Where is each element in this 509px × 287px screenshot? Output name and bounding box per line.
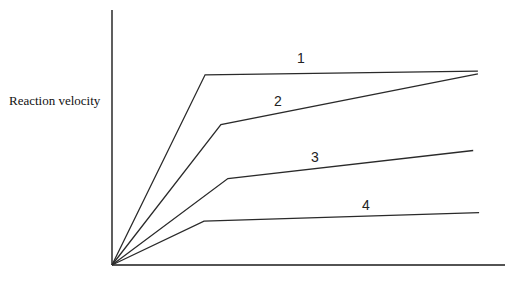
line-label-4: 4 — [362, 197, 370, 213]
series-line-4 — [112, 213, 479, 265]
line-label-3: 3 — [311, 149, 319, 165]
series-group — [112, 71, 479, 265]
series-line-3 — [112, 151, 473, 266]
y-axis-label: Reaction velocity — [9, 93, 101, 108]
reaction-velocity-chart: Reaction velocity 1 2 3 4 — [0, 0, 509, 287]
series-line-2 — [112, 74, 478, 265]
line-label-2: 2 — [274, 93, 282, 109]
series-line-1 — [112, 71, 478, 265]
line-label-1: 1 — [297, 50, 305, 66]
